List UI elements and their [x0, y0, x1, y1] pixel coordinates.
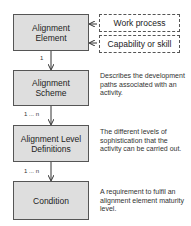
node-label: Alignment [32, 78, 70, 88]
node-label: Element [32, 33, 70, 43]
multiplicity-label: 1 ... n [24, 111, 39, 117]
node-label: Definitions [21, 144, 81, 154]
node-description: Describes the development paths associat… [100, 72, 190, 98]
node-label: Alignment Level [21, 134, 81, 144]
node-condition: Condition [13, 181, 89, 220]
multiplicity-label: 1 ... n [24, 168, 39, 174]
input-work-process: Work process [99, 14, 180, 32]
node-alignment-element: Alignment Element [13, 14, 89, 51]
node-label: Scheme [32, 88, 70, 98]
node-label: Condition [33, 196, 69, 206]
node-label: Alignment [32, 23, 70, 33]
node-alignment-scheme: Alignment Scheme [13, 70, 89, 106]
input-label: Work process [114, 18, 166, 28]
node-alignment-level-definitions: Alignment Level Definitions [13, 125, 89, 162]
input-label: Capability or skill [108, 39, 172, 49]
node-description: A requirement to fulfil an alignment ele… [100, 188, 190, 214]
input-capability-or-skill: Capability or skill [99, 35, 180, 53]
multiplicity-label: 1 [40, 55, 43, 61]
node-description: The different levels of sophistication t… [100, 128, 190, 154]
